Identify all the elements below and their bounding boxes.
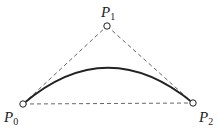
edge-p0-p1 xyxy=(23,26,107,104)
label-p1: P1 xyxy=(100,4,115,22)
point-p0 xyxy=(20,101,26,107)
edge-p0-p2 xyxy=(23,103,193,104)
bezier-diagram: P1 P0 P2 xyxy=(0,0,218,131)
label-p2: P2 xyxy=(198,109,213,127)
bezier-curve xyxy=(23,68,193,104)
point-p1 xyxy=(104,23,110,29)
label-p0: P0 xyxy=(3,109,18,127)
point-p2 xyxy=(190,100,196,106)
edge-p1-p2 xyxy=(107,26,193,103)
